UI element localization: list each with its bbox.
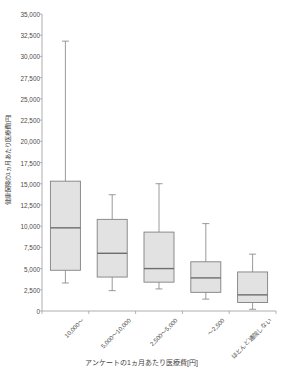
- box-rect: [191, 262, 221, 293]
- box-rect: [238, 272, 268, 303]
- box-plot-chart: 健康保険の1ヵ月あたり医療費[円] 35,00032,50030,00027,5…: [0, 0, 283, 375]
- box-rect: [50, 181, 80, 270]
- box-rect: [97, 219, 127, 277]
- x-axis-title: アンケートの1ヵ月あたり医療費[円]: [0, 357, 283, 367]
- box-rect: [144, 232, 174, 282]
- plot-area: [0, 0, 283, 375]
